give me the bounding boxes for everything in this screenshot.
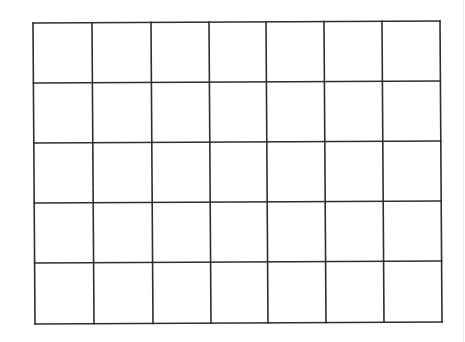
grid-vertical-line: [33, 23, 35, 324]
grid-horizontal-line: [33, 81, 440, 83]
grid-vertical-line: [209, 22, 211, 323]
grid-vertical-line: [382, 21, 384, 322]
grid-vertical-lines: [33, 21, 442, 324]
grid-diagram: [0, 0, 465, 342]
grid-vertical-line: [151, 22, 153, 323]
grid-vertical-line: [92, 23, 94, 324]
grid-vertical-line: [324, 22, 326, 323]
grid-horizontal-line: [34, 141, 441, 143]
grid-vertical-line: [440, 21, 442, 322]
grid-horizontal-line: [33, 21, 440, 23]
grid-horizontal-line: [35, 261, 442, 263]
grid-horizontal-line: [35, 322, 442, 324]
grid-horizontal-line: [34, 201, 441, 203]
grid-vertical-line: [266, 22, 268, 323]
